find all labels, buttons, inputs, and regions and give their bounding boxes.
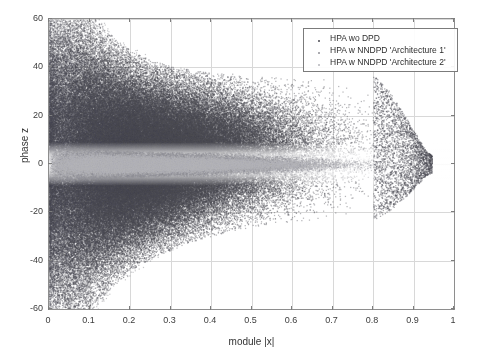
y-axis-tick: [451, 211, 455, 212]
x-axis-tick: [129, 306, 130, 310]
figure: 6040200-20-40-60 00.10.20.30.40.50.60.70…: [0, 0, 488, 361]
x-tick-label: 0.4: [197, 315, 223, 325]
legend-label: HPA wo DPD: [330, 33, 380, 44]
y-axis-tick: [48, 260, 52, 261]
x-tick-label: 1: [440, 315, 466, 325]
x-axis-tick: [291, 306, 292, 310]
x-tick-label: 0.2: [116, 315, 142, 325]
y-tick-label: 40: [17, 61, 43, 71]
x-tick-label: 0.3: [157, 315, 183, 325]
legend-entry-nndpd-architecture-1: HPA w NNDPD 'Architecture 1': [308, 44, 453, 56]
y-tick-label: -20: [17, 206, 43, 216]
y-tick-label: -40: [17, 255, 43, 265]
legend-label: HPA w NNDPD 'Architecture 1': [330, 45, 446, 56]
x-axis-tick: [170, 306, 171, 310]
x-axis-tick: [332, 18, 333, 22]
y-axis-tick: [48, 308, 52, 309]
y-axis-tick: [451, 308, 455, 309]
x-axis-tick: [170, 18, 171, 22]
x-axis-tick: [332, 306, 333, 310]
x-tick-label: 0.8: [359, 315, 385, 325]
x-axis-tick: [413, 18, 414, 22]
y-axis-tick: [48, 18, 52, 19]
y-axis-tick: [451, 163, 455, 164]
legend-marker-icon: [308, 33, 330, 44]
legend-label: HPA w NNDPD 'Architecture 2': [330, 57, 446, 68]
y-axis-tick: [451, 260, 455, 261]
x-axis-tick: [89, 18, 90, 22]
x-tick-label: 0.6: [278, 315, 304, 325]
legend-entry-nndpd-architecture-2: HPA w NNDPD 'Architecture 2': [308, 56, 453, 68]
x-axis-tick: [89, 306, 90, 310]
x-axis-tick: [372, 18, 373, 22]
x-axis-tick: [291, 18, 292, 22]
x-axis-tick: [251, 306, 252, 310]
x-tick-label: 0: [35, 315, 61, 325]
x-axis-tick: [129, 18, 130, 22]
y-axis-tick: [48, 163, 52, 164]
y-axis-tick: [48, 66, 52, 67]
y-axis-tick: [48, 211, 52, 212]
x-tick-label: 0.7: [319, 315, 345, 325]
x-axis-title: module |x|: [48, 336, 455, 347]
x-tick-label: 0.5: [238, 315, 264, 325]
y-tick-label: 60: [17, 13, 43, 23]
x-axis-tick: [413, 306, 414, 310]
x-tick-label: 0.1: [76, 315, 102, 325]
y-axis-tick: [451, 18, 455, 19]
y-tick-label: -60: [17, 303, 43, 313]
y-axis-title: phase z: [19, 106, 30, 186]
x-tick-label: 0.9: [400, 315, 426, 325]
y-axis-tick: [451, 115, 455, 116]
x-axis-tick: [372, 306, 373, 310]
legend-marker-icon: [308, 45, 330, 56]
x-axis-tick: [251, 18, 252, 22]
x-axis-tick: [210, 18, 211, 22]
legend-marker-icon: [308, 57, 330, 68]
legend: HPA wo DPD HPA w NNDPD 'Architecture 1' …: [303, 28, 458, 72]
y-axis-tick: [48, 115, 52, 116]
legend-entry-hpa-wo-dpd: HPA wo DPD: [308, 32, 453, 44]
x-axis-tick: [210, 306, 211, 310]
